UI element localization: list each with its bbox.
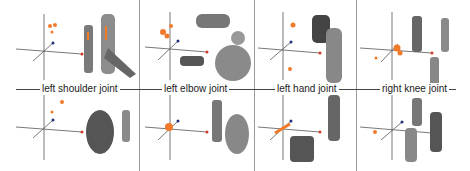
point-cloud-top-2 [160,24,173,39]
axes-bottom-1 [16,95,82,160]
axes-bottom-2 [145,95,207,160]
column-label-left-elbow: left elbow joint [162,83,229,95]
point-cloud-top-4 [375,45,403,60]
person-silhouettes-bottom-2 [212,100,249,154]
point-cloud-bottom-1 [51,100,65,114]
person-silhouettes-bottom-1 [86,110,130,154]
point-cloud-top-1 [48,23,57,34]
person-silhouettes-bottom-3 [290,95,340,162]
person-silhouettes-top-3 [312,15,342,83]
point-cloud-top-3 [288,23,296,72]
column-label-left-shoulder: left shoulder joint [40,83,120,95]
person-silhouettes-top-4 [412,16,449,85]
person-silhouettes-top-1 [84,14,136,78]
point-cloud-bottom-2 [165,123,173,131]
column-label-right-knee: right knee joint [380,83,449,95]
axes-top-1 [16,14,82,80]
column-label-left-hand: left hand joint [275,83,339,95]
person-silhouettes-bottom-4 [405,98,442,162]
point-cloud-bottom-4 [373,130,377,134]
person-silhouettes-top-2 [180,14,251,81]
